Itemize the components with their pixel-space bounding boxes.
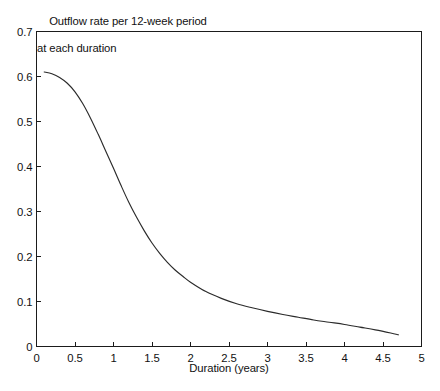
- x-axis-title: Duration (years): [189, 362, 268, 375]
- y-tick-label: 0.5: [0, 116, 33, 128]
- y-tick-label: 0.7: [0, 26, 33, 38]
- outflow-rate-curve: [44, 72, 398, 335]
- x-tick-label: 1: [110, 352, 116, 364]
- plot-frame: [37, 32, 422, 347]
- x-tick-label: 5: [418, 352, 424, 364]
- x-tick-label: 0.5: [67, 352, 82, 364]
- y-tick-label: 0.2: [0, 251, 33, 263]
- x-tick-label: 4.5: [375, 352, 390, 364]
- x-tick-label: 1.5: [144, 352, 159, 364]
- figure-caption-partial: [6, 381, 426, 391]
- y-tick-label: 0: [0, 341, 33, 353]
- y-tick-label: 0.4: [0, 161, 33, 173]
- plot-area: [0, 0, 440, 391]
- x-tick-label: 4: [341, 352, 347, 364]
- y-tick-label: 0.1: [0, 296, 33, 308]
- x-axis-ticks: [37, 342, 422, 347]
- y-tick-label: 0.6: [0, 71, 33, 83]
- chart-figure: Outflow rate per 12-week period at each …: [0, 0, 440, 391]
- x-tick-label: 0: [33, 352, 39, 364]
- y-tick-label: 0.3: [0, 206, 33, 218]
- y-axis-ticks: [37, 32, 42, 302]
- x-tick-label: 3.5: [298, 352, 313, 364]
